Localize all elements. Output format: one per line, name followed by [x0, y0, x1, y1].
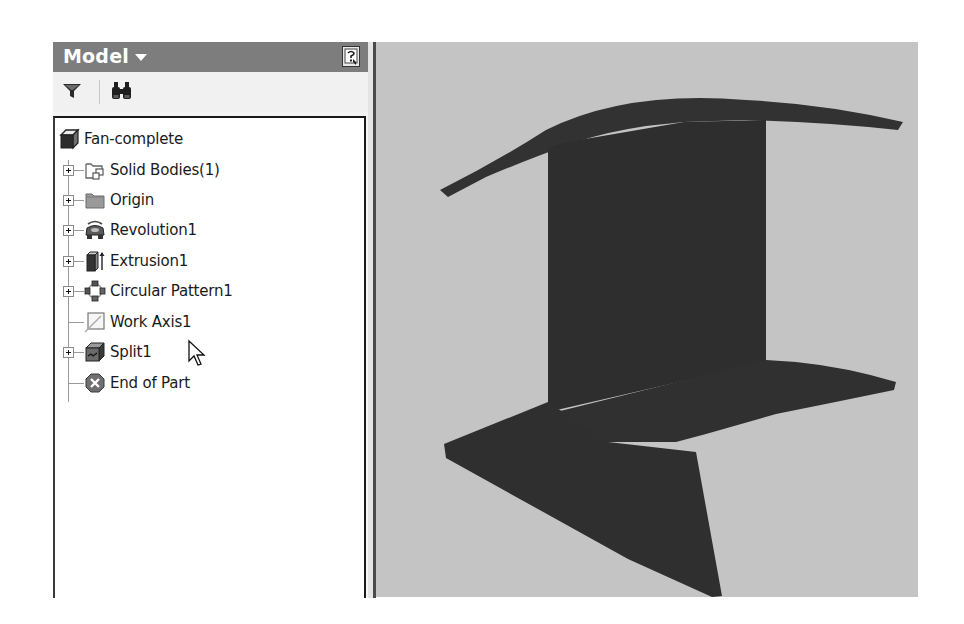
tree-connector	[68, 383, 84, 384]
toolbar-separator	[99, 80, 100, 104]
tree-item-origin[interactable]: Origin	[84, 189, 154, 211]
tree-item-label: Revolution1	[110, 221, 197, 239]
tree-item-label: Circular Pattern1	[110, 282, 233, 300]
tree-item-extrusion1[interactable]: Extrusion1	[84, 250, 188, 272]
tree-item-work-axis1[interactable]: Work Axis1	[84, 311, 191, 333]
tree-item-label: Split1	[110, 343, 152, 361]
tree-connector	[74, 261, 84, 262]
find-button[interactable]	[110, 80, 132, 102]
split-icon	[84, 341, 106, 363]
browser-toolbar	[53, 72, 368, 112]
model-browser-panel: Model	[53, 42, 368, 598]
expand-toggle[interactable]	[63, 195, 74, 206]
expand-toggle[interactable]	[63, 286, 74, 297]
tree-connector	[74, 200, 84, 201]
browser-title-dropdown[interactable]: Model	[63, 45, 147, 67]
circular-pattern-icon	[84, 280, 106, 302]
expand-toggle[interactable]	[63, 347, 74, 358]
binoculars-icon	[110, 80, 134, 102]
browser-title: Model	[63, 45, 129, 67]
expand-toggle[interactable]	[63, 165, 74, 176]
filter-button[interactable]	[61, 80, 83, 102]
tree-item-solid-bodies[interactable]: Solid Bodies(1)	[84, 159, 220, 181]
solid-bodies-folder-icon	[84, 159, 106, 181]
tree-item-label: End of Part	[110, 374, 190, 392]
tree-connector	[74, 230, 84, 231]
filter-icon	[61, 80, 83, 102]
tree-item-label: Fan-complete	[84, 130, 183, 148]
tree-connector	[74, 291, 84, 292]
tree-item-label: Solid Bodies(1)	[110, 161, 220, 179]
revolution-icon	[84, 219, 106, 241]
model-tree[interactable]: Fan-complete Solid Bodies(1) Origin	[53, 116, 366, 598]
part-icon	[58, 128, 80, 150]
tree-item-label: Work Axis1	[110, 313, 191, 331]
tree-connector	[74, 170, 84, 171]
expand-toggle[interactable]	[63, 256, 74, 267]
tree-item-split1[interactable]: Split1	[84, 341, 152, 363]
expand-toggle[interactable]	[63, 225, 74, 236]
tree-connector	[74, 352, 84, 353]
origin-folder-icon	[84, 189, 106, 211]
end-of-part-icon	[84, 372, 106, 394]
fan-blade-model[interactable]	[376, 42, 918, 597]
tree-connector	[68, 322, 84, 323]
help-icon[interactable]	[342, 46, 360, 67]
dropdown-caret-icon	[135, 54, 147, 61]
tree-item-end-of-part[interactable]: End of Part	[84, 372, 190, 394]
browser-header: Model	[53, 42, 368, 72]
tree-item-label: Extrusion1	[110, 252, 188, 270]
tree-item-root[interactable]: Fan-complete	[58, 128, 183, 150]
tree-item-revolution1[interactable]: Revolution1	[84, 219, 197, 241]
graphics-viewport[interactable]	[376, 42, 918, 597]
tree-item-label: Origin	[110, 191, 154, 209]
extrusion-icon	[84, 250, 106, 272]
work-axis-icon	[84, 311, 106, 333]
mouse-cursor-icon	[187, 339, 207, 369]
tree-item-circular-pattern1[interactable]: Circular Pattern1	[84, 280, 233, 302]
tree-connector-vertical	[68, 361, 69, 383]
